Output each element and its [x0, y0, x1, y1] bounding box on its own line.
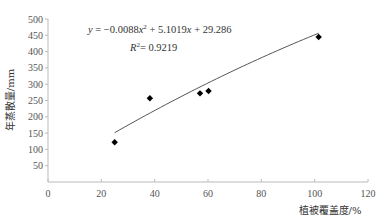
x-tick-label: 40 [150, 188, 160, 199]
y-tick-label: 400 [28, 46, 43, 57]
y-tick-label: 100 [28, 144, 43, 155]
x-tick-label: 60 [203, 188, 213, 199]
y-tick-label: 250 [28, 95, 43, 106]
x-axis-label: 植被覆盖度/% [299, 204, 362, 216]
data-point [315, 34, 321, 40]
scatter-chart: 50100150200250300350400450500 0204060801… [0, 0, 387, 220]
data-point [197, 90, 203, 96]
x-tick-label: 100 [307, 188, 322, 199]
data-point [205, 88, 211, 94]
axes [48, 19, 368, 182]
y-tick-label: 50 [33, 160, 43, 171]
y-tick-label: 350 [28, 62, 43, 73]
y-axis-label: 年蒸散量/mm [4, 68, 16, 131]
y-tick-label: 300 [28, 79, 43, 90]
y-tick-label: 150 [28, 128, 43, 139]
data-point [147, 95, 153, 101]
y-tick-label: 500 [28, 14, 43, 25]
x-tick-label: 80 [256, 188, 266, 199]
y-tick-label: 200 [28, 111, 43, 122]
equation-annotation: y = −0.0088x2 + 5.1019x + 29.286 [87, 23, 232, 35]
x-tick-label: 20 [96, 188, 106, 199]
x-tick-label: 120 [361, 188, 376, 199]
y-axis-ticks: 50100150200250300350400450500 [28, 14, 48, 172]
r-squared-annotation: R2= 0.9219 [129, 41, 177, 53]
x-tick-label: 0 [46, 188, 51, 199]
y-tick-label: 450 [28, 30, 43, 41]
data-point [111, 139, 117, 145]
